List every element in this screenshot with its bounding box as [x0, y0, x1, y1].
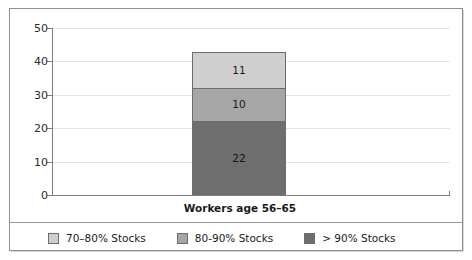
ytick-label-50: 50 — [18, 23, 48, 34]
stacked-bar[interactable]: 11 10 22 — [192, 53, 286, 195]
bar-segment-label-over-90: 22 — [232, 153, 245, 164]
category-axis-label-text: Workers age 56–65 — [184, 202, 296, 214]
x-axis-line — [52, 195, 450, 196]
ytick-label-0: 0 — [18, 190, 48, 201]
legend-divider — [10, 222, 462, 223]
legend-swatch-80-90 — [177, 233, 188, 244]
chart-figure: 50 40 30 20 10 0 11 10 22 Worker — [0, 0, 472, 260]
category-axis-label: Workers age 56–65 — [52, 202, 450, 214]
bar-segment-70-80[interactable]: 11 — [192, 52, 286, 89]
bar-segment-label-70-80: 11 — [232, 65, 245, 76]
legend-item-80-90[interactable]: 80-90% Stocks — [177, 233, 273, 244]
ytick-label-30: 30 — [18, 90, 48, 101]
y-axis-line — [52, 28, 53, 196]
x-axis-end-tick — [449, 191, 450, 196]
legend-label-70-80: 70–80% Stocks — [66, 233, 146, 244]
legend-label-80-90: 80-90% Stocks — [195, 233, 273, 244]
ytick-label-10: 10 — [18, 157, 48, 168]
plot-area: 50 40 30 20 10 0 11 10 22 — [52, 28, 450, 196]
chart-legend: 70–80% Stocks 80-90% Stocks > 90% Stocks — [10, 227, 462, 249]
ytick-label-40: 40 — [18, 56, 48, 67]
legend-item-70-80[interactable]: 70–80% Stocks — [48, 233, 146, 244]
ytick-label-20: 20 — [18, 123, 48, 134]
bar-segment-label-80-90: 10 — [232, 99, 245, 110]
gridline-50 — [52, 28, 450, 29]
legend-label-over-90: > 90% Stocks — [322, 233, 395, 244]
legend-swatch-over-90 — [304, 233, 315, 244]
bar-segment-80-90[interactable]: 10 — [192, 88, 286, 122]
legend-item-over-90[interactable]: > 90% Stocks — [304, 233, 395, 244]
bar-segment-over-90[interactable]: 22 — [192, 121, 286, 196]
legend-swatch-70-80 — [48, 233, 59, 244]
